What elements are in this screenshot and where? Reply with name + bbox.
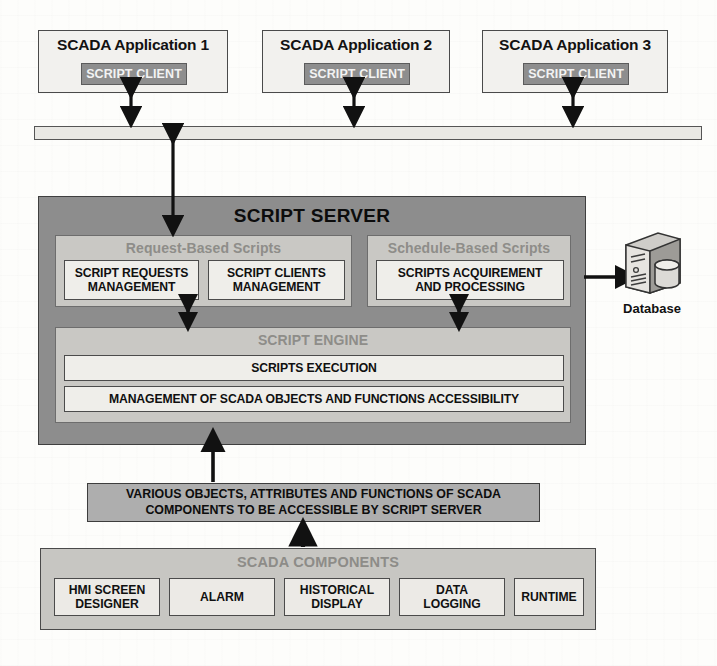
- component-0-line1: HMI SCREEN: [69, 583, 146, 597]
- scada-application-1-title: SCADA Application 1: [39, 36, 227, 54]
- scripts-acquirement-line1: SCRIPTS ACQUIREMENT: [398, 266, 543, 280]
- request-based-scripts-group: Request-Based Scripts SCRIPT REQUESTS MA…: [55, 235, 352, 307]
- objects-bar-line2: COMPONENTS TO BE ACCESSIBLE BY SCRIPT SE…: [145, 503, 481, 517]
- scada-components-title: SCADA COMPONENTS: [41, 554, 595, 570]
- scripts-execution-box[interactable]: SCRIPTS EXECUTION: [64, 355, 564, 381]
- script-engine-label: SCRIPT ENGINE: [56, 332, 570, 348]
- network-bus-bar: [34, 126, 702, 140]
- script-server-container: SCRIPT SERVER Request-Based Scripts SCRI…: [38, 196, 586, 445]
- script-clients-management-box[interactable]: SCRIPT CLIENTS MANAGEMENT: [208, 260, 345, 300]
- script-requests-management-line1: SCRIPT REQUESTS: [75, 266, 189, 280]
- scripts-acquirement-processing-box[interactable]: SCRIPTS ACQUIREMENT AND PROCESSING: [376, 260, 564, 300]
- script-client-1-box[interactable]: SCRIPT CLIENT: [81, 63, 187, 85]
- component-2-line2: DISPLAY: [311, 597, 363, 611]
- objects-bar-line1: VARIOUS OBJECTS, ATTRIBUTES AND FUNCTION…: [126, 487, 501, 501]
- script-requests-management-box[interactable]: SCRIPT REQUESTS MANAGEMENT: [64, 260, 199, 300]
- component-2-line1: HISTORICAL: [300, 583, 374, 597]
- schedule-based-scripts-group: Schedule-Based Scripts SCRIPTS ACQUIREME…: [367, 235, 571, 307]
- various-objects-attributes-box[interactable]: VARIOUS OBJECTS, ATTRIBUTES AND FUNCTION…: [87, 483, 540, 522]
- scripts-acquirement-line2: AND PROCESSING: [415, 280, 525, 294]
- script-engine-group: SCRIPT ENGINE SCRIPTS EXECUTION MANAGEME…: [55, 327, 571, 423]
- scada-application-3-box[interactable]: SCADA Application 3 SCRIPT CLIENT: [482, 30, 668, 93]
- scada-application-1-box[interactable]: SCADA Application 1 SCRIPT CLIENT: [38, 30, 228, 93]
- management-scada-objects-box[interactable]: MANAGEMENT OF SCADA OBJECTS AND FUNCTION…: [64, 386, 564, 412]
- scripts-execution-label: SCRIPTS EXECUTION: [251, 361, 377, 375]
- component-hmi-screen-designer[interactable]: HMI SCREEN DESIGNER: [54, 578, 160, 616]
- component-0-line2: DESIGNER: [75, 597, 139, 611]
- scada-components-container: SCADA COMPONENTS HMI SCREEN DESIGNER ALA…: [40, 548, 596, 630]
- script-clients-management-line2: MANAGEMENT: [233, 280, 321, 294]
- component-runtime[interactable]: RUNTIME: [514, 578, 584, 616]
- script-clients-management-line1: SCRIPT CLIENTS: [227, 266, 326, 280]
- scada-application-2-title: SCADA Application 2: [263, 36, 449, 54]
- script-server-title: SCRIPT SERVER: [39, 205, 585, 227]
- management-scada-objects-label: MANAGEMENT OF SCADA OBJECTS AND FUNCTION…: [109, 392, 519, 406]
- scada-application-2-box[interactable]: SCADA Application 2 SCRIPT CLIENT: [262, 30, 450, 93]
- component-3-line2: LOGGING: [423, 597, 481, 611]
- component-1-line1: ALARM: [200, 590, 244, 604]
- component-historical-display[interactable]: HISTORICAL DISPLAY: [284, 578, 390, 616]
- component-data-logging[interactable]: DATA LOGGING: [399, 578, 505, 616]
- component-alarm[interactable]: ALARM: [169, 578, 275, 616]
- scada-application-3-title: SCADA Application 3: [483, 36, 667, 54]
- component-4-line1: RUNTIME: [521, 590, 577, 604]
- database-server-icon: [614, 231, 688, 299]
- script-client-2-box[interactable]: SCRIPT CLIENT: [304, 63, 410, 85]
- script-requests-management-line2: MANAGEMENT: [88, 280, 176, 294]
- script-client-3-box[interactable]: SCRIPT CLIENT: [523, 63, 629, 85]
- request-based-scripts-label: Request-Based Scripts: [56, 240, 351, 256]
- component-3-line1: DATA: [436, 583, 468, 597]
- database-label: Database: [608, 301, 696, 316]
- schedule-based-scripts-label: Schedule-Based Scripts: [368, 240, 570, 256]
